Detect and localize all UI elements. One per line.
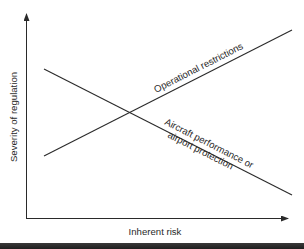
- x-axis-label: Inherent risk: [129, 226, 182, 237]
- bottom-border-bar: [0, 243, 304, 249]
- y-axis-label: Severity of regulation: [8, 72, 19, 162]
- operational-restrictions-label: Operational restrictions: [152, 40, 245, 95]
- regulation-risk-diagram: Operational restrictions Aircraft perfor…: [0, 0, 304, 249]
